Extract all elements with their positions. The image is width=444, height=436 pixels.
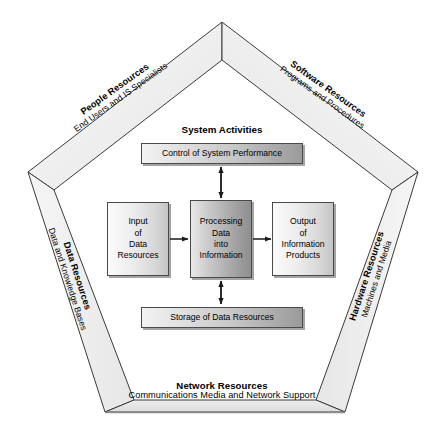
activity-box-processing-line-2: Data	[212, 228, 230, 239]
activity-box-processing: Processing Data into Information	[190, 200, 252, 278]
activity-box-input-line-1: Input	[128, 216, 147, 227]
activity-box-processing-line-1: Processing	[200, 216, 243, 227]
activity-box-processing-line-4: Information	[200, 250, 243, 261]
activity-box-input-line-4: Resources	[117, 250, 158, 261]
system-activities-heading: System Activities	[122, 124, 322, 135]
activity-box-output-line-2: of	[299, 228, 306, 239]
activity-box-output-line-1: Output	[290, 216, 316, 227]
activity-box-input-line-2: of	[134, 228, 141, 239]
activity-box-output: Output of Information Products	[272, 202, 334, 276]
activity-box-storage-line-1: Storage of Data Resources	[170, 312, 274, 323]
activity-box-output-line-3: Information	[282, 239, 325, 250]
diagram-canvas: People Resources End Users and IS Specia…	[0, 0, 444, 436]
activity-box-input-line-3: Data	[129, 239, 147, 250]
band-software	[222, 22, 418, 190]
activity-box-storage: Storage of Data Resources	[141, 307, 303, 328]
activity-box-control-line-1: Control of System Performance	[162, 148, 282, 159]
activity-box-control: Control of System Performance	[141, 143, 303, 164]
activity-box-output-line-4: Products	[286, 250, 320, 261]
activity-box-input: Input of Data Resources	[107, 202, 169, 276]
activity-box-processing-line-3: into	[214, 239, 228, 250]
band-people	[28, 22, 222, 190]
band-network	[105, 400, 345, 412]
